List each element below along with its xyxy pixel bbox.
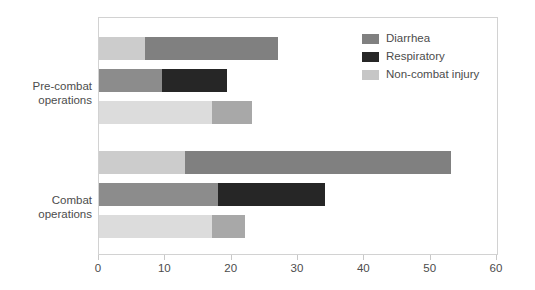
category-label-line2: operations: [0, 207, 92, 221]
legend-label: Non-combat injury: [386, 68, 479, 81]
x-axis-tick: [98, 255, 99, 260]
bar-combat-bar-3: [99, 215, 245, 238]
x-axis-tick-label: 20: [224, 262, 237, 274]
bar-segment: [212, 101, 252, 124]
bar-chart: Pre-combat operations Combat operations …: [0, 0, 535, 290]
category-label-combat: Combat operations: [0, 193, 92, 221]
x-axis-tick-label: 40: [357, 262, 370, 274]
x-axis-tick-label: 60: [490, 262, 503, 274]
bar-segment: [99, 151, 185, 174]
legend-swatch-icon: [362, 52, 379, 62]
x-axis-tick: [297, 255, 298, 260]
category-label-line1: Pre-combat: [0, 79, 92, 93]
bar-segment: [99, 101, 212, 124]
bar-segment: [99, 69, 162, 92]
category-label-line1: Combat: [0, 193, 92, 207]
x-axis-tick: [164, 255, 165, 260]
x-axis-tick-label: 50: [423, 262, 436, 274]
bar-segment: [145, 37, 278, 60]
x-axis-tick-label: 10: [158, 262, 171, 274]
legend-label: Respiratory: [386, 50, 445, 63]
category-label-pre-combat: Pre-combat operations: [0, 79, 92, 107]
bar-pre-combat-bar-1: [99, 37, 278, 60]
legend-item-non-combat-injury[interactable]: Non-combat injury: [362, 68, 479, 81]
x-axis-tick: [363, 255, 364, 260]
x-axis-tick: [430, 255, 431, 260]
bar-pre-combat-bar-3: [99, 101, 252, 124]
x-axis-tick: [496, 255, 497, 260]
bar-segment: [99, 183, 218, 206]
bar-segment: [185, 151, 450, 174]
legend-swatch-icon: [362, 34, 379, 44]
bar-segment: [99, 215, 212, 238]
legend-swatch-icon: [362, 70, 379, 80]
x-axis-tick: [231, 255, 232, 260]
bar-segment: [212, 215, 245, 238]
bar-combat-bar-1: [99, 151, 451, 174]
bar-segment: [218, 183, 324, 206]
bar-combat-bar-2: [99, 183, 325, 206]
legend-label: Diarrhea: [386, 32, 430, 45]
bar-segment: [162, 69, 227, 92]
category-label-line2: operations: [0, 93, 92, 107]
legend-item-diarrhea[interactable]: Diarrhea: [362, 32, 479, 45]
legend: DiarrheaRespiratoryNon-combat injury: [362, 32, 479, 81]
bar-pre-combat-bar-2: [99, 69, 227, 92]
legend-item-respiratory[interactable]: Respiratory: [362, 50, 479, 63]
x-axis-tick-label: 30: [291, 262, 304, 274]
bar-segment: [99, 37, 145, 60]
y-axis-category-labels: Pre-combat operations Combat operations: [0, 17, 92, 255]
x-axis: 0102030405060: [98, 255, 498, 285]
x-axis-tick-label: 0: [95, 262, 101, 274]
